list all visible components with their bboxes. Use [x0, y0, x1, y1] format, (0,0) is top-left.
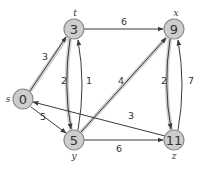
node-value-s: 0 — [19, 92, 27, 107]
node-t: 3 t — [64, 8, 84, 39]
edge-label-y-t: 1 — [86, 75, 92, 86]
edge-label-t-x: 6 — [121, 16, 127, 27]
node-name-y: y — [70, 151, 77, 161]
edge-label-y-z: 6 — [116, 143, 122, 154]
edges — [30, 29, 182, 140]
node-y: 5 y — [64, 130, 84, 161]
node-value-z: 11 — [166, 133, 183, 148]
node-s: 0 s — [6, 89, 33, 109]
edge-z-s — [33, 102, 165, 136]
edge-label-s-y: 5 — [40, 111, 46, 122]
edge-s-y — [31, 107, 66, 133]
edge-label-z-x: 7 — [188, 75, 194, 86]
graph-diagram: 3 5 6 2 1 4 6 2 7 3 0 s 3 t 9 x 5 y 11 z — [0, 0, 203, 170]
edge-label-y-x: 4 — [118, 75, 124, 86]
edge-label-x-z: 2 — [161, 75, 167, 86]
node-x: 9 x — [164, 8, 184, 39]
node-name-z: z — [171, 151, 177, 161]
node-value-y: 5 — [70, 133, 78, 148]
node-name-x: x — [173, 8, 178, 18]
edge-z-x — [178, 40, 182, 130]
node-name-t: t — [73, 8, 77, 18]
edge-label-s-t: 3 — [42, 51, 48, 62]
node-z: 11 z — [164, 130, 184, 161]
highlighted-edges — [30, 37, 171, 132]
node-value-t: 3 — [70, 22, 78, 37]
edge-label-z-s: 3 — [128, 110, 134, 121]
edge-y-t — [78, 40, 82, 130]
edge-label-t-y: 2 — [61, 75, 67, 86]
node-name-s: s — [6, 94, 11, 104]
node-value-x: 9 — [170, 22, 178, 37]
